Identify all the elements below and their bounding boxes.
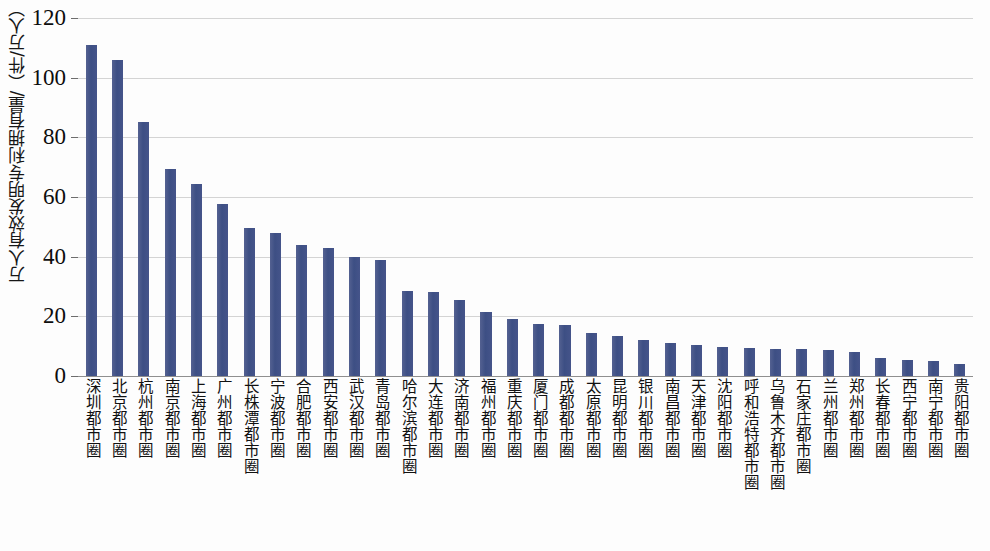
bar[interactable] xyxy=(165,169,176,376)
x-tick-label: 青岛都市圈 xyxy=(373,378,389,458)
x-tick-label: 贵阳都市圈 xyxy=(952,378,968,458)
y-tick-label: 20 xyxy=(8,303,66,329)
bar[interactable] xyxy=(665,343,676,376)
bar[interactable] xyxy=(902,360,913,376)
bar[interactable] xyxy=(796,349,807,376)
bar[interactable] xyxy=(138,122,149,376)
bars-layer xyxy=(78,18,973,376)
bar[interactable] xyxy=(112,60,123,376)
bar[interactable] xyxy=(323,248,334,376)
x-tick-label: 上海都市圈 xyxy=(188,378,204,458)
bar[interactable] xyxy=(533,324,544,376)
y-tick-label: 60 xyxy=(8,184,66,210)
y-tick-label: 80 xyxy=(8,124,66,150)
y-tick-label: 120 xyxy=(8,5,66,31)
x-tick-label: 郑州都市圈 xyxy=(847,378,863,458)
bar[interactable] xyxy=(86,45,97,376)
bar[interactable] xyxy=(717,347,728,376)
y-tick-mark xyxy=(71,257,78,258)
bar[interactable] xyxy=(928,361,939,376)
bar[interactable] xyxy=(849,352,860,376)
y-tick-label: 40 xyxy=(8,244,66,270)
x-tick-label: 银川都市圈 xyxy=(636,378,652,458)
y-tick-label: 0 xyxy=(8,363,66,389)
bar[interactable] xyxy=(954,364,965,376)
bar[interactable] xyxy=(770,349,781,376)
x-tick-label: 深圳都市圈 xyxy=(83,378,99,458)
y-tick-label: 100 xyxy=(8,65,66,91)
bar[interactable] xyxy=(744,348,755,376)
x-tick-label: 乌鲁木齐都市圈 xyxy=(768,378,784,490)
bar[interactable] xyxy=(191,184,202,376)
y-tick-mark xyxy=(71,316,78,317)
y-tick-mark xyxy=(71,78,78,79)
bar[interactable] xyxy=(428,292,439,376)
x-tick-label: 南昌都市圈 xyxy=(662,378,678,458)
x-tick-label: 宁波都市圈 xyxy=(267,378,283,458)
x-tick-label: 南京都市圈 xyxy=(162,378,178,458)
bar[interactable] xyxy=(507,319,518,376)
x-tick-label: 济南都市圈 xyxy=(452,378,468,458)
bar[interactable] xyxy=(691,345,702,376)
x-tick-label: 大连都市圈 xyxy=(425,378,441,458)
x-tick-label: 成都都市圈 xyxy=(557,378,573,458)
x-axis-tick-labels: 深圳都市圈北京都市圈杭州都市圈南京都市圈上海都市圈广州都市圈长株潭都市圈宁波都市… xyxy=(78,378,973,550)
x-tick-label: 呼和浩特都市圈 xyxy=(741,378,757,490)
bar[interactable] xyxy=(454,300,465,376)
bar[interactable] xyxy=(638,340,649,376)
x-tick-label: 太原都市圈 xyxy=(583,378,599,458)
bar[interactable] xyxy=(296,245,307,376)
x-tick-label: 沈阳都市圈 xyxy=(715,378,731,458)
bar[interactable] xyxy=(244,228,255,376)
x-tick-label: 兰州都市圈 xyxy=(820,378,836,458)
x-tick-label: 石家庄都市圈 xyxy=(794,378,810,474)
bar[interactable] xyxy=(217,204,228,376)
bar[interactable] xyxy=(559,325,570,376)
bar[interactable] xyxy=(270,233,281,376)
x-tick-label: 长春都市圈 xyxy=(873,378,889,458)
x-tick-label: 西安都市圈 xyxy=(320,378,336,458)
y-tick-mark xyxy=(71,197,78,198)
x-tick-label: 北京都市圈 xyxy=(109,378,125,458)
y-tick-mark xyxy=(71,376,78,377)
gridline xyxy=(78,376,973,377)
bar[interactable] xyxy=(480,312,491,376)
plot-area xyxy=(78,18,973,376)
x-tick-label: 杭州都市圈 xyxy=(136,378,152,458)
x-tick-label: 合肥都市圈 xyxy=(294,378,310,458)
x-tick-label: 南宁都市圈 xyxy=(926,378,942,458)
x-tick-label: 武汉都市圈 xyxy=(346,378,362,458)
bar[interactable] xyxy=(375,260,386,376)
y-tick-mark xyxy=(71,137,78,138)
bar[interactable] xyxy=(349,257,360,376)
bar[interactable] xyxy=(586,333,597,376)
x-tick-label: 广州都市圈 xyxy=(215,378,231,458)
bar[interactable] xyxy=(875,358,886,376)
bar[interactable] xyxy=(612,336,623,376)
bar[interactable] xyxy=(402,291,413,376)
x-tick-label: 哈尔滨都市圈 xyxy=(399,378,415,474)
x-tick-label: 重庆都市圈 xyxy=(504,378,520,458)
x-tick-label: 厦门都市圈 xyxy=(531,378,547,458)
y-tick-mark xyxy=(71,18,78,19)
x-tick-label: 福州都市圈 xyxy=(478,378,494,458)
x-tick-label: 西宁都市圈 xyxy=(899,378,915,458)
bar[interactable] xyxy=(823,350,834,376)
bar-chart: 万人有效发明专利拥有量/（件/万人） 020406080100120 深圳都市圈… xyxy=(0,0,990,551)
x-tick-label: 长株潭都市圈 xyxy=(241,378,257,474)
x-tick-label: 昆明都市圈 xyxy=(610,378,626,458)
x-tick-label: 天津都市圈 xyxy=(689,378,705,458)
